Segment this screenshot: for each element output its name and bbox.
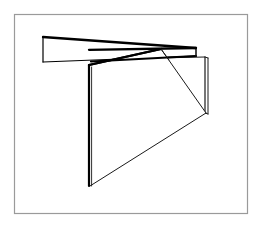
geometric-line-drawing-canvas [0, 0, 260, 228]
